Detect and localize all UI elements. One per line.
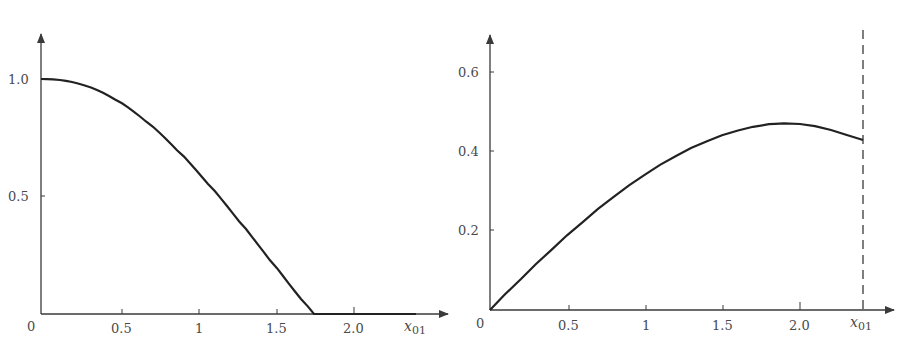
left-y-label-0.5: 0.5: [8, 189, 29, 204]
left-x-label-x01: x01: [404, 318, 426, 337]
left-x-label-1.5: 1.5: [266, 321, 287, 336]
left-chart: [41, 34, 448, 314]
left-x-label-1: 1: [195, 321, 203, 336]
right-y-label-0.4: 0.4: [458, 144, 479, 159]
figure: 1.0 0.5 0 0.5 1 1.5 2.0 x01 0.6 0.4 0.2 …: [0, 0, 907, 342]
left-y-label-1.0: 1.0: [8, 72, 29, 87]
right-x-label-0: 0: [476, 316, 484, 331]
left-x-label-0: 0: [27, 319, 35, 334]
left-x-label-0.5: 0.5: [111, 321, 132, 336]
left-curve-j0: [41, 79, 416, 314]
right-curve-j1: [490, 123, 863, 310]
right-x-label-x01: x01: [850, 314, 872, 333]
right-x-label-1.5: 1.5: [712, 318, 733, 333]
right-chart: [490, 30, 894, 310]
left-x-label-2.0: 2.0: [343, 321, 364, 336]
right-x-label-2.0: 2.0: [789, 318, 810, 333]
right-x-label-1: 1: [642, 318, 650, 333]
right-y-label-0.6: 0.6: [458, 65, 479, 80]
right-x-label-0.5: 0.5: [558, 318, 579, 333]
right-y-label-0.2: 0.2: [458, 223, 479, 238]
